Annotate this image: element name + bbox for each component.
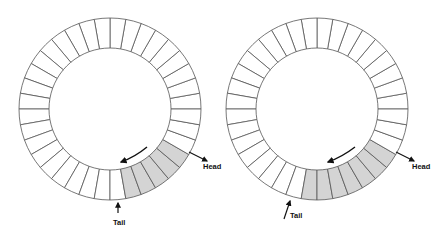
ring-buffer-right: HeadTail bbox=[226, 18, 431, 220]
head-label: Head bbox=[412, 162, 431, 171]
ring-buffer-left: HeadTail bbox=[19, 18, 222, 227]
rotation-arrow-icon bbox=[121, 147, 147, 162]
head-pointer-arrow-icon bbox=[396, 152, 414, 161]
head-pointer-arrow-icon bbox=[189, 152, 207, 161]
tail-label: Tail bbox=[290, 211, 302, 220]
head-label: Head bbox=[203, 162, 222, 171]
ring-buffer-diagram: HeadTail HeadTail bbox=[0, 0, 445, 239]
tail-label: Tail bbox=[113, 218, 125, 227]
